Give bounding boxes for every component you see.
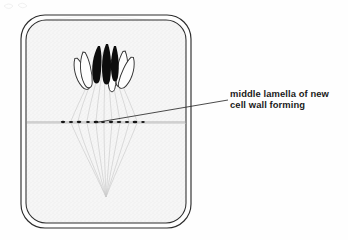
cell-division-figure: middle lamella of new cell wall forming <box>0 0 348 240</box>
middle-lamella-label: middle lamella of new cell wall forming <box>230 88 346 110</box>
label-line-1: middle lamella of new <box>230 88 346 99</box>
diagram-canvas <box>0 0 348 240</box>
chromosomes-filled-upper <box>92 44 119 85</box>
label-line-2: cell wall forming <box>230 99 346 110</box>
